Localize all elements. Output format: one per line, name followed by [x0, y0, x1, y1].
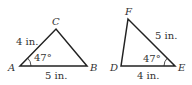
side-label-ac: 4 in. — [16, 36, 38, 47]
vertex-label-f: F — [124, 6, 133, 17]
side-label-de: 4 in. — [137, 70, 159, 81]
vertex-label-b: B — [89, 62, 97, 73]
triangle-def: D E F 5 in. 4 in. 47° — [109, 6, 186, 81]
angle-arc-a — [28, 58, 31, 66]
triangle-abc-shape — [20, 29, 87, 66]
side-label-ab: 5 in. — [45, 70, 67, 81]
side-label-fe: 5 in. — [155, 30, 177, 41]
vertex-label-c: C — [52, 16, 60, 27]
vertex-label-a: A — [7, 62, 15, 73]
diagram-canvas: A B C 4 in. 5 in. 47° D E F 5 in. 4 in. … — [0, 0, 192, 85]
angle-label-e: 47° — [143, 53, 161, 64]
angle-label-a: 47° — [34, 52, 52, 63]
vertex-label-d: D — [109, 62, 118, 73]
vertex-label-e: E — [177, 62, 186, 73]
angle-arc-e — [164, 58, 167, 66]
triangle-abc: A B C 4 in. 5 in. 47° — [7, 16, 97, 81]
